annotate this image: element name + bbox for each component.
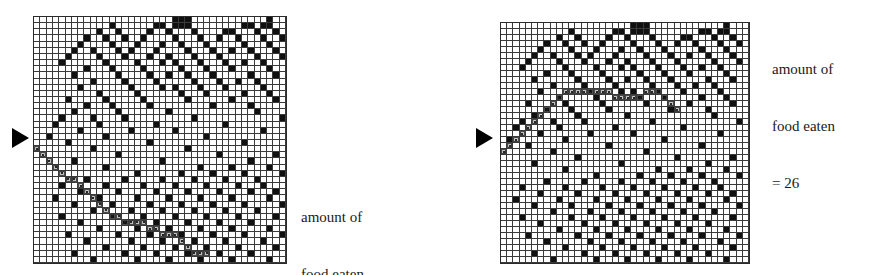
grid-cell-empty [743,257,749,263]
start-arrow-icon [12,128,29,148]
grid-cell-empty [280,257,286,263]
caption-right: amount of food eaten = 26 [772,22,835,231]
caption-right-line3: = 26 [772,174,835,193]
caption-left-line1: amount of [301,208,364,227]
grid-world-right[interactable] [500,22,750,264]
grid-world-left[interactable] [33,16,287,264]
start-arrow-icon [476,128,493,148]
caption-right-line1: amount of [772,60,835,79]
panel-left: amount of food eaten = 21 [0,0,445,275]
caption-left: amount of food eaten = 21 [301,170,364,275]
figure-root: amount of food eaten = 21 amount of food… [0,0,889,275]
caption-left-line2: food eaten [301,265,364,275]
caption-right-line2: food eaten [772,117,835,136]
panel-right: amount of food eaten = 26 [445,0,889,275]
